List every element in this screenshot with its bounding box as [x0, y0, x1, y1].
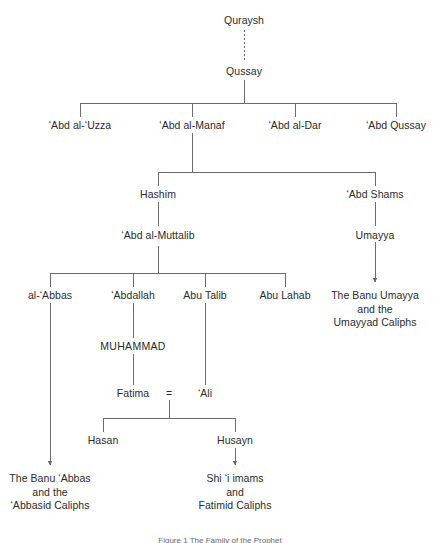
node-abd-al-muttalib: ʻAbd al-Muttalib — [121, 229, 194, 243]
node-abdallah: ʻAbdallah — [111, 289, 155, 303]
node-abd-shams: ʻAbd Shams — [346, 188, 403, 202]
node-abd-qussay: ʻAbd Qussay — [366, 119, 426, 133]
banu-abbas-line-2: and the — [0, 486, 115, 500]
node-hasan: Hasan — [88, 434, 119, 448]
node-umayya: Umayya — [356, 229, 395, 243]
marriage-equals-sign: = — [166, 387, 172, 401]
node-hashim: Hashim — [140, 188, 176, 202]
node-abu-talib: Abu Talib — [183, 289, 226, 303]
genealogy-diagram: Quraysh Qussay ʻAbd al-ʻUzza ʻAbd al-Man… — [0, 0, 439, 543]
node-husayn: Husayn — [217, 434, 253, 448]
shii-line-1: Shi ʻi imams — [170, 472, 300, 486]
connector-lines — [0, 0, 439, 543]
node-abu-lahab: Abu Lahab — [259, 289, 310, 303]
figure-caption: Figure 1 The Family of the Prophet — [158, 536, 281, 543]
node-abd-al-uzza: ʻAbd al-ʻUzza — [49, 119, 112, 133]
node-quraysh: Quraysh — [224, 14, 264, 28]
node-fatima: Fatima — [117, 387, 149, 401]
node-al-abbas: al-ʻAbbas — [28, 289, 72, 303]
banu-umayya-line-2: and the — [310, 303, 439, 317]
banu-umayya-line-3: Umayyad Caliphs — [310, 316, 439, 330]
shii-line-2: and — [170, 486, 300, 500]
node-banu-abbas: The Banu ʻAbbas and the ʻAbbasid Caliphs — [0, 472, 115, 513]
node-abd-al-manaf: ʻAbd al-Manaf — [159, 119, 224, 133]
banu-abbas-line-3: ʻAbbasid Caliphs — [0, 499, 115, 513]
node-banu-umayya: The Banu Umayya and the Umayyad Caliphs — [310, 289, 439, 330]
banu-abbas-line-1: The Banu ʻAbbas — [0, 472, 115, 486]
node-abd-al-dar: ʻAbd al-Dar — [268, 119, 321, 133]
shii-line-3: Fatimid Caliphs — [170, 499, 300, 513]
banu-umayya-line-1: The Banu Umayya — [310, 289, 439, 303]
node-muhammad: MUHAMMAD — [100, 340, 165, 354]
node-ali: ʻAli — [198, 387, 212, 401]
node-qussay: Qussay — [226, 65, 262, 79]
node-shii-imams: Shi ʻi imams and Fatimid Caliphs — [170, 472, 300, 513]
